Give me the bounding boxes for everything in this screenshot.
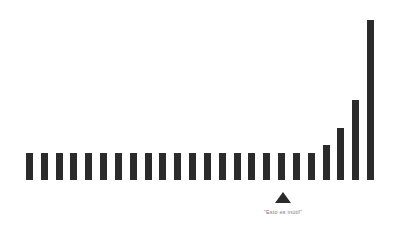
bar [278, 153, 285, 180]
bar [323, 145, 330, 180]
bar [263, 153, 270, 180]
bar [174, 153, 181, 180]
bar [115, 153, 122, 180]
bar [145, 153, 152, 180]
bar [41, 153, 48, 180]
bar [100, 153, 107, 180]
bar [85, 153, 92, 180]
annotation-label: "Esto es inútil" [223, 210, 343, 216]
bar [352, 100, 359, 180]
chart-canvas: "Esto es inútil" [0, 0, 393, 237]
bar [26, 153, 33, 180]
bar-chart-plot-area [0, 0, 393, 237]
bar [130, 153, 137, 180]
bar [293, 153, 300, 180]
bar [308, 153, 315, 180]
bar [337, 128, 344, 180]
bar [70, 153, 77, 180]
bar [189, 153, 196, 180]
bar [159, 153, 166, 180]
bar [367, 20, 374, 180]
bar [248, 153, 255, 180]
bar [204, 153, 211, 180]
bar [219, 153, 226, 180]
bar [234, 153, 241, 180]
bar [56, 153, 63, 180]
triangle-up-icon [275, 192, 291, 203]
